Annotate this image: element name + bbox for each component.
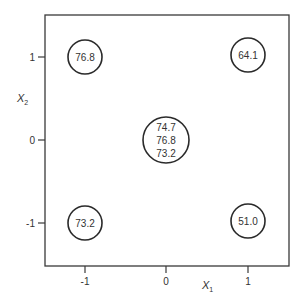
- point-value: 51.0: [238, 216, 258, 227]
- x-axis-subscript: 1: [209, 286, 213, 293]
- y-axis-title: X2: [16, 92, 28, 106]
- x-tick-label-1: 1: [245, 276, 251, 287]
- point-value: 76.8: [156, 135, 176, 146]
- design-point-center: 74.7 76.8 73.2: [143, 117, 189, 163]
- point-value: 64.1: [238, 50, 258, 61]
- x-tick-label-0: 0: [163, 276, 169, 287]
- point-value: 76.8: [75, 52, 95, 63]
- design-diagram: 1 0 -1 X2 -1 0 1 X1 76.8 64.1 74.7 76.8 …: [0, 0, 304, 303]
- y-axis: 1 0 -1 X2: [16, 52, 45, 229]
- y-tick-label-0: 0: [29, 135, 35, 146]
- point-value: 73.2: [75, 218, 95, 229]
- y-tick-label-neg1: -1: [26, 218, 35, 229]
- x-tick-label-neg1: -1: [81, 276, 90, 287]
- design-point-top-right: 64.1: [231, 38, 265, 72]
- design-point-bottom-right: 51.0: [231, 204, 265, 238]
- y-tick-label-1: 1: [29, 52, 35, 63]
- design-point-bottom-left: 73.2: [68, 206, 102, 240]
- x-axis: -1 0 1 X1: [81, 266, 252, 293]
- design-point-top-left: 76.8: [68, 40, 102, 74]
- point-value: 73.2: [156, 148, 176, 159]
- y-axis-subscript: 2: [24, 99, 28, 106]
- point-value: 74.7: [156, 122, 176, 133]
- x-axis-title: X1: [201, 279, 213, 293]
